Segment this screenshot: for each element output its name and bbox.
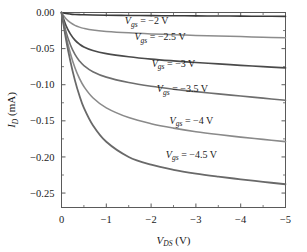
figure-container: 0−1−2−3−4−50.00−0.05−0.10−0.15−0.20−0.25… [0, 0, 307, 252]
curve-annotation-value-3: = −3.5 V [170, 83, 209, 94]
curve-annotation-0: Vgs = −2 V [125, 15, 169, 29]
y-tick-label-0: 0.00 [36, 7, 54, 18]
curve-annotation-value-4: = −4 V [182, 115, 214, 126]
x-tick-label-0: 0 [59, 214, 64, 225]
curve-annotation-value-0: = −2 V [138, 15, 170, 26]
curve-annotation-value-1: = −2.5 V [147, 31, 186, 42]
x-axis-title: VDS (V) [156, 234, 190, 249]
x-tick-label-4: −4 [235, 214, 247, 225]
y-tick-label-3: −0.15 [30, 115, 54, 126]
x-tick-label-1: −1 [101, 214, 112, 225]
y-tick-label-1: −0.05 [30, 43, 54, 54]
y-tick-label-2: −0.10 [30, 79, 54, 90]
x-tick-label-5: −5 [280, 214, 291, 225]
curve-annotation-4: Vgs = −4 V [170, 115, 214, 129]
y-tick-label-5: −0.25 [30, 188, 54, 199]
x-axis-unit: (V) [172, 234, 190, 247]
curve-annotation-subscript-0: gs [131, 20, 138, 29]
y-axis-title-group: ID (mA) [5, 92, 20, 129]
curve-annotation-value-5: = −4.5 V [179, 149, 218, 160]
curve-annotation-value-2: = −3 V [165, 58, 197, 69]
y-axis-title: ID (mA) [5, 92, 20, 129]
output-characteristics-chart: 0−1−2−3−4−50.00−0.05−0.10−0.15−0.20−0.25… [0, 0, 307, 252]
x-tick-label-2: −2 [146, 214, 157, 225]
y-tick-label-4: −0.20 [30, 152, 54, 163]
x-tick-label-3: −3 [190, 214, 201, 225]
x-axis-subscript: DS [162, 239, 172, 248]
y-axis-unit: (mA) [5, 92, 18, 119]
curve-annotation-3: Vgs = −3.5 V [157, 83, 209, 97]
curve-annotation-5: Vgs = −4.5 V [166, 149, 218, 163]
